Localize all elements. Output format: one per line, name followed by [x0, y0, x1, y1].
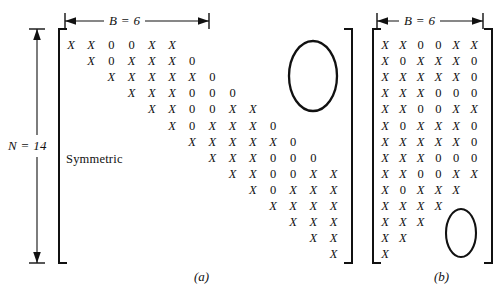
matrix-cell-nonzero: X [326, 199, 342, 214]
matrix-cell-nonzero: X [124, 54, 140, 69]
matrix-cell-nonzero: X [305, 215, 321, 230]
matrix-cell-nonzero: X [164, 38, 180, 53]
matrix-cell-zero: 0 [204, 86, 220, 101]
order-label-a: N = 14 [6, 135, 49, 157]
bandwidth-label-b: B = 6 [399, 13, 440, 29]
matrix-cell-nonzero: X [245, 102, 261, 117]
matrix-cell-zero: 0 [103, 38, 119, 53]
matrix-cell-nonzero: X [326, 183, 342, 198]
matrix-cell-nonzero: X [245, 135, 261, 150]
matrix-cell-nonzero: X [164, 54, 180, 69]
matrix-cell-nonzero: X [225, 102, 241, 117]
matrix-cell-nonzero: X [466, 167, 482, 182]
matrix-cell-nonzero: X [377, 199, 393, 214]
matrix-cell-nonzero: X [326, 247, 342, 262]
matrix-cell-nonzero: X [377, 151, 393, 166]
matrix-cell-nonzero: X [377, 86, 393, 101]
matrix-cell-zero: 0 [413, 102, 429, 117]
matrix-cell-zero: 0 [466, 70, 482, 85]
matrix-cell-nonzero: X [395, 231, 411, 246]
matrix-cell-nonzero: X [395, 215, 411, 230]
matrix-cell-nonzero: X [225, 119, 241, 134]
matrix-cell-nonzero: X [184, 70, 200, 85]
matrix-cell-nonzero: X [395, 86, 411, 101]
matrix-cell-nonzero: X [285, 199, 301, 214]
matrix-cell-nonzero: X [265, 199, 281, 214]
matrix-cell-nonzero: X [395, 151, 411, 166]
matrix-cell-zero: 0 [184, 119, 200, 134]
matrix-cell-zero: 0 [184, 54, 200, 69]
matrix-cell-nonzero: X [430, 135, 446, 150]
matrix-cell-nonzero: X [305, 231, 321, 246]
matrix-cell-nonzero: X [204, 151, 220, 166]
matrix-cell-nonzero: X [377, 183, 393, 198]
matrix-cell-nonzero: X [395, 38, 411, 53]
matrix-cell-zero: 0 [225, 86, 241, 101]
matrix-cell-nonzero: X [305, 199, 321, 214]
matrix-cell-zero: 0 [103, 54, 119, 69]
matrix-cell-nonzero: X [305, 167, 321, 182]
matrix-cell-nonzero: X [430, 183, 446, 198]
symmetric-note: Symmetric [66, 152, 123, 167]
matrix-cell-nonzero: X [225, 151, 241, 166]
matrix-cell-nonzero: X [448, 54, 464, 69]
matrix-cell-nonzero: X [430, 70, 446, 85]
matrix-cell-zero: 0 [448, 151, 464, 166]
matrix-cell-zero: 0 [265, 183, 281, 198]
matrix-cell-zero: 0 [285, 151, 301, 166]
matrix-cell-zero: 0 [265, 167, 281, 182]
matrix-cell-nonzero: X [466, 38, 482, 53]
matrix-bracket-left-a [58, 28, 67, 264]
matrix-cell-zero: 0 [285, 167, 301, 182]
matrix-cell-nonzero: X [448, 102, 464, 117]
matrix-cell-zero: 0 [430, 151, 446, 166]
matrix-cell-nonzero: X [245, 183, 261, 198]
matrix-cell-nonzero: X [413, 86, 429, 101]
matrix-cell-nonzero: X [448, 38, 464, 53]
matrix-cell-zero: 0 [285, 135, 301, 150]
matrix-cell-zero: 0 [430, 86, 446, 101]
matrix-cell-nonzero: X [413, 119, 429, 134]
matrix-bracket-right-b [484, 28, 493, 264]
matrix-cell-nonzero: X [103, 70, 119, 85]
matrix-cell-nonzero: X [377, 119, 393, 134]
matrix-cell-nonzero: X [245, 151, 261, 166]
matrix-bracket-right-a [344, 28, 353, 264]
matrix-cell-nonzero: X [448, 70, 464, 85]
matrix-cell-nonzero: X [448, 167, 464, 182]
matrix-cell-nonzero: X [466, 102, 482, 117]
matrix-cell-nonzero: X [430, 119, 446, 134]
matrix-cell-nonzero: X [430, 199, 446, 214]
matrix-cell-zero: 0 [395, 119, 411, 134]
matrix-cell-nonzero: X [285, 215, 301, 230]
matrix-cell-zero: 0 [184, 86, 200, 101]
matrix-cell-nonzero: X [83, 38, 99, 53]
matrix-cell-nonzero: X [430, 54, 446, 69]
matrix-cell-nonzero: X [124, 70, 140, 85]
matrix-cell-zero: 0 [466, 135, 482, 150]
matrix-cell-nonzero: X [204, 135, 220, 150]
matrix-cell-nonzero: X [377, 167, 393, 182]
matrix-cell-nonzero: X [377, 38, 393, 53]
matrix-cell-zero: 0 [265, 151, 281, 166]
matrix-cell-nonzero: X [164, 102, 180, 117]
matrix-cell-nonzero: X [413, 151, 429, 166]
matrix-cell-nonzero: X [413, 199, 429, 214]
matrix-cell-zero: 0 [305, 151, 321, 166]
matrix-cell-nonzero: X [395, 167, 411, 182]
matrix-cell-zero: 0 [204, 70, 220, 85]
matrix-cell-zero: 0 [204, 102, 220, 117]
matrix-cell-nonzero: X [413, 183, 429, 198]
empty-region-ellipse-b [443, 207, 479, 259]
matrix-cell-nonzero: X [448, 183, 464, 198]
matrix-cell-nonzero: X [395, 199, 411, 214]
matrix-cell-nonzero: X [144, 102, 160, 117]
matrix-cell-nonzero: X [395, 70, 411, 85]
caption-b: (b) [434, 269, 449, 285]
matrix-cell-nonzero: X [164, 70, 180, 85]
matrix-cell-nonzero: X [225, 135, 241, 150]
matrix-cell-nonzero: X [164, 119, 180, 134]
matrix-cell-zero: 0 [395, 183, 411, 198]
matrix-cell-nonzero: X [395, 102, 411, 117]
matrix-cell-nonzero: X [377, 54, 393, 69]
